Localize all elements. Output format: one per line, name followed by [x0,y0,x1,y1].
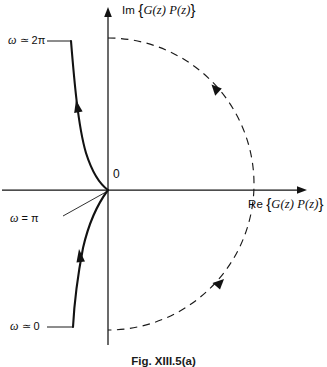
nyquist-locus-group [71,41,108,327]
imaginary-axis-label-text: Im {G(z) P(z)} [122,4,196,16]
figure-caption: Fig. XIII.5(a) [0,355,327,367]
omega-2pi-label: ω ≃ 2π [8,34,45,46]
dashed-lower-arrowhead [213,279,225,290]
real-axis-label-text: Re {G(z) P(z)} [248,198,324,210]
axes-group [2,7,307,345]
dashed-closure-arc [108,38,254,330]
nyquist-figure: Im {G(z) P(z)} Re {G(z) P(z)} 0 ω ≃ 2π ω… [0,0,327,367]
real-axis-label: Re {G(z) P(z)} [248,196,324,211]
imaginary-axis-label: Im {G(z) P(z)} [122,2,196,17]
nyquist-plot-canvas [0,0,327,367]
omega-pi-label: ω = π [10,212,39,224]
omega-0-label: ω ≃ 0 [10,320,40,332]
origin-label: 0 [113,168,120,180]
nyquist-locus-upper [71,41,108,190]
locus-lower-arrowhead [77,249,86,263]
real-axis-arrowhead [297,186,307,194]
dashed-closure-arc-group [108,38,254,330]
imaginary-axis-arrowhead [104,7,112,17]
locus-upper-arrowhead [74,100,82,113]
